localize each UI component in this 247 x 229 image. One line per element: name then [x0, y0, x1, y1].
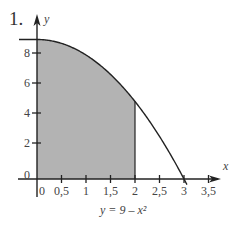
x-tick-label: 0,5 [54, 184, 69, 198]
y-tick-label: 8 [24, 46, 30, 60]
y-tick-label: 6 [24, 76, 30, 90]
shaded-area [37, 40, 135, 180]
graph-figure: 00,511,522,533,5 02468 y x 1. y = 9 – x² [0, 0, 247, 229]
y-axis-label: y [43, 12, 50, 26]
x-tick-label: 3,5 [201, 184, 216, 198]
y-tick-label: 0 [24, 168, 30, 182]
equation-label: y = 9 – x² [99, 203, 147, 217]
x-tick-label: 2,5 [152, 184, 167, 198]
x-tick-label: 0 [39, 184, 45, 198]
x-tick-label: 1,5 [103, 184, 118, 198]
x-tick-label: 2 [132, 184, 138, 198]
x-tick-label: 1 [83, 184, 89, 198]
problem-number: 1. [9, 8, 23, 29]
y-tick-label: 2 [24, 136, 30, 150]
x-tick-label: 3 [181, 184, 187, 198]
x-axis-label: x [222, 159, 229, 173]
y-tick-label: 4 [24, 106, 30, 120]
